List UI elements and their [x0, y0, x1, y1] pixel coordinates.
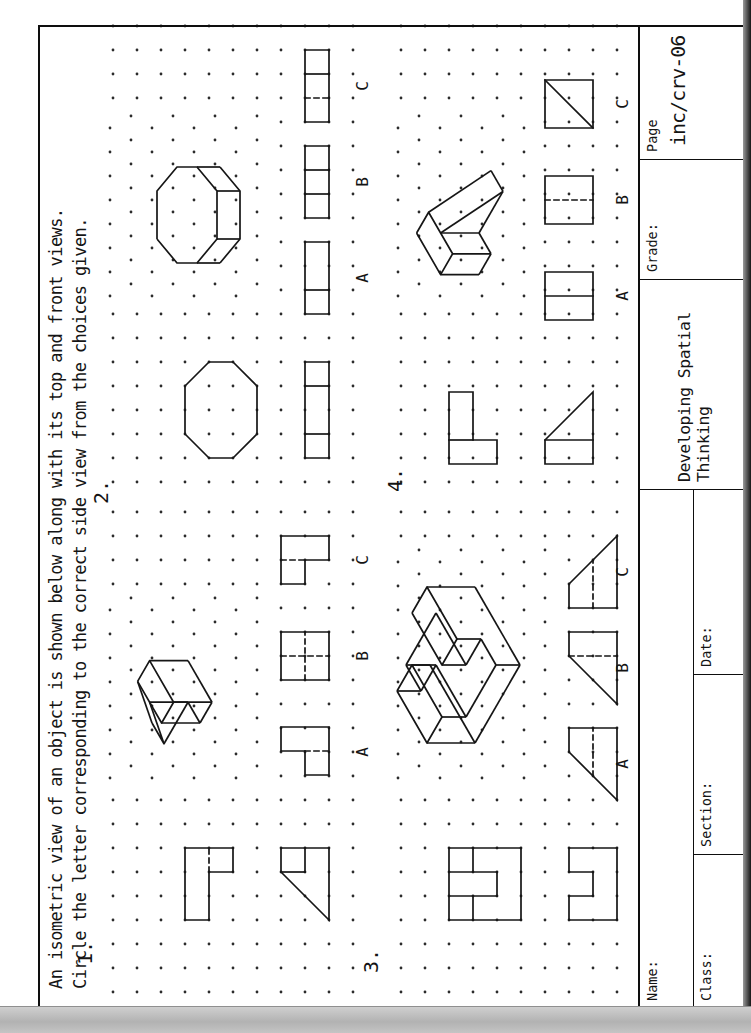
- name-field[interactable]: Name:: [640, 490, 693, 1008]
- date-label: Date:: [698, 626, 714, 667]
- worksheet-title-cell: Developing Spatial Thinking: [640, 280, 747, 490]
- scan-edge-right: [743, 0, 751, 1033]
- worksheet-page: 1.ABC2.ABC3.ABC4.ABC An isometric view o…: [0, 0, 751, 1033]
- section-label: Section:: [698, 782, 714, 847]
- class-label: Class:: [698, 952, 714, 1001]
- title-block: Name: Class: Section: Date: Developing S…: [638, 25, 745, 1008]
- page-label: Page: [644, 119, 660, 152]
- class-field[interactable]: Class:: [693, 855, 747, 1008]
- worksheet-scan: 1.ABC2.ABC3.ABC4.ABC An isometric view o…: [0, 0, 751, 1033]
- grade-field[interactable]: Grade:: [640, 160, 747, 280]
- name-label: Name:: [644, 960, 660, 1001]
- section-field[interactable]: Section:: [693, 675, 747, 855]
- worksheet-title: Developing Spatial Thinking: [675, 287, 713, 482]
- grade-label: Grade:: [644, 223, 660, 272]
- scan-edge-bottom: [0, 1006, 751, 1033]
- page-number: inc/crv-06: [666, 32, 690, 146]
- date-field[interactable]: Date:: [693, 490, 747, 675]
- page-cell: Page inc/crv-06: [640, 25, 747, 160]
